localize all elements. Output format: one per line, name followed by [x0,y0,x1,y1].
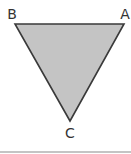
vertex-label-b: B [7,6,17,22]
triangle-diagram: A B C [0,0,131,154]
vertex-label-c: C [65,125,75,141]
vertex-label-a: A [120,6,130,22]
triangle-abc [15,24,124,121]
